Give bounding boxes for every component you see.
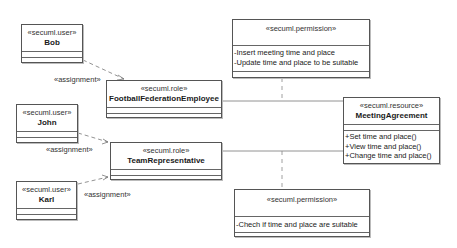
resource-meeting-agreement[interactable]: «secuml.resource» MeetingAgreement +Set …	[343, 97, 440, 164]
resource-operation: +Set time and place()	[344, 132, 439, 142]
role-stereotype: «secuml.role»	[107, 81, 221, 93]
user-john[interactable]: «secuml.user» John	[16, 104, 78, 143]
resource-operation: +Change time and place()	[344, 151, 439, 161]
permission-stereotype: «secuml.permission»	[233, 20, 369, 45]
user-stereotype: «secuml.user»	[17, 105, 77, 117]
operations-compartment	[17, 214, 76, 219]
resource-stereotype: «secuml.resource»	[344, 98, 439, 110]
permission-top[interactable]: «secuml.permission» -Insert meeting time…	[232, 19, 370, 78]
permission-action: -Chech if time and place are suitable	[235, 220, 369, 230]
assignment-label-john: «assignment»	[46, 145, 93, 154]
user-stereotype: «secuml.user»	[17, 182, 76, 194]
user-karl[interactable]: «secuml.user» Karl	[16, 181, 77, 220]
operations-compartment	[111, 175, 221, 180]
role-team-representative[interactable]: «secuml.role» TeamRepresentative	[110, 142, 222, 180]
user-name: Bob	[22, 37, 82, 48]
assignment-karl-tr	[78, 177, 108, 184]
resource-operation: +View time and place()	[344, 142, 439, 152]
permission-extra-compartment	[233, 71, 369, 77]
assignment-label-bob: «assignment»	[54, 75, 101, 84]
operations-compartment	[17, 137, 77, 142]
user-stereotype: «secuml.user»	[22, 25, 82, 37]
user-bob[interactable]: «secuml.user» Bob	[21, 24, 83, 63]
role-stereotype: «secuml.role»	[111, 143, 221, 155]
role-name: TeamRepresentative	[111, 155, 221, 166]
operations-compartment	[107, 113, 221, 118]
permission-action: -Insert meeting time and place	[233, 48, 369, 58]
permission-actions: -Insert meeting time and place -Update t…	[233, 45, 369, 71]
role-name: FootballFederationEmployee	[107, 93, 221, 104]
permission-stereotype: «secuml.permission»	[235, 190, 369, 216]
permission-extra-compartment	[235, 232, 369, 238]
permission-action: -Update time and place to be suitable	[233, 58, 369, 68]
user-name: John	[17, 117, 77, 128]
role-football-federation-employee[interactable]: «secuml.role» FootballFederationEmployee	[106, 80, 222, 118]
operations-compartment	[22, 57, 82, 62]
permission-bottom[interactable]: «secuml.permission» -Chech if time and p…	[234, 189, 370, 237]
assignment-label-karl: «assignment»	[84, 190, 131, 199]
operations-compartment: +Set time and place() +View time and pla…	[344, 130, 439, 161]
resource-name: MeetingAgreement	[344, 110, 439, 121]
permission-actions: -Chech if time and place are suitable	[235, 216, 369, 232]
user-name: Karl	[17, 194, 76, 205]
assignment-john-tr	[78, 133, 108, 142]
